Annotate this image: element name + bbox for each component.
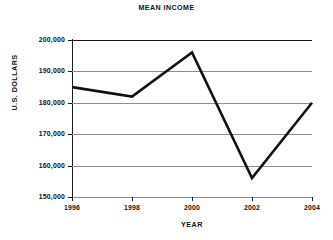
x-axis-tick <box>72 197 73 201</box>
y-axis-tick-label: 160,000 <box>23 161 65 170</box>
y-axis-tick-label: 200,000 <box>23 35 65 44</box>
x-axis-tick <box>252 197 253 201</box>
x-axis-tick-label: 1998 <box>112 203 152 212</box>
y-axis-title: U.S. DOLLARS <box>10 47 19 119</box>
line-chart: MEAN INCOME U.S. DOLLARS YEAR 150,000160… <box>0 0 333 240</box>
y-axis-tick-label: 150,000 <box>23 192 65 201</box>
x-axis-tick <box>192 197 193 201</box>
y-axis-tick-label: 180,000 <box>23 98 65 107</box>
y-axis-tick-label: 170,000 <box>23 129 65 138</box>
x-axis-tick-label: 2004 <box>292 203 332 212</box>
y-axis-tick-label: 190,000 <box>23 66 65 75</box>
x-axis-tick <box>312 197 313 201</box>
plot-area <box>72 40 312 197</box>
x-axis-tick-label: 2002 <box>232 203 272 212</box>
x-axis-tick-label: 1996 <box>52 203 92 212</box>
x-axis-tick <box>132 197 133 201</box>
chart-title: MEAN INCOME <box>20 3 313 12</box>
x-axis-tick-label: 2000 <box>172 203 212 212</box>
data-series-line <box>72 40 312 197</box>
x-axis-title: YEAR <box>84 220 300 229</box>
